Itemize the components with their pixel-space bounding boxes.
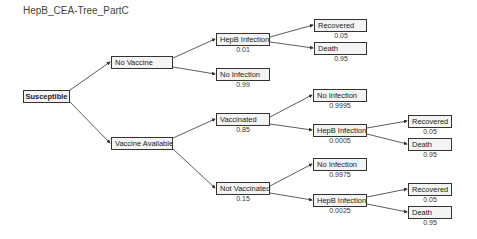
node-nvac-hepb-infection[interactable]: HepB Infection — [313, 194, 367, 207]
node-nvac-no-infection[interactable]: No Infection — [313, 158, 367, 171]
prob-v-recovered: 0.05 — [403, 128, 457, 135]
prob-nv-no-infection: 0.99 — [216, 81, 270, 88]
node-nv-recovered[interactable]: Recovered — [314, 19, 367, 32]
node-v-death[interactable]: Death — [408, 138, 452, 151]
node-not-vaccinated[interactable]: Not Vaccinated — [216, 182, 270, 195]
node-v-recovered[interactable]: Recovered — [408, 115, 452, 128]
node-nvac-death[interactable]: Death — [408, 206, 452, 219]
node-vaccine-available[interactable]: Vaccine Available — [111, 137, 173, 150]
prob-nv-recovered: 0.05 — [314, 32, 368, 39]
node-no-vaccine[interactable]: No Vaccine — [111, 56, 173, 69]
prob-v-no-infection: 0.9995 — [313, 102, 367, 109]
prob-nvac-death: 0.95 — [403, 219, 457, 226]
node-susceptible[interactable]: Susceptible — [23, 90, 70, 103]
prob-nv-death: 0.95 — [314, 55, 368, 62]
prob-vaccinated: 0.85 — [216, 126, 270, 133]
node-nv-death[interactable]: Death — [314, 42, 367, 55]
prob-nvac-hepb-infection: 0.0025 — [313, 207, 367, 214]
prob-not-vaccinated: 0.15 — [216, 195, 270, 202]
prob-nv-hepb-infection: 0.01 — [216, 46, 270, 53]
node-v-no-infection[interactable]: No Infection — [313, 89, 367, 102]
prob-v-hepb-infection: 0.0005 — [313, 137, 367, 144]
node-v-hepb-infection[interactable]: HepB Infection — [313, 124, 367, 137]
node-nv-hepb-infection[interactable]: HepB Infection — [216, 33, 270, 46]
prob-v-death: 0.95 — [403, 151, 457, 158]
node-nv-no-infection[interactable]: No Infection — [216, 68, 270, 81]
node-nvac-recovered[interactable]: Recovered — [408, 183, 452, 196]
prob-nvac-no-infection: 0.9975 — [313, 171, 367, 178]
prob-nvac-recovered: 0.05 — [403, 196, 457, 203]
node-vaccinated[interactable]: Vaccinated — [216, 113, 270, 126]
